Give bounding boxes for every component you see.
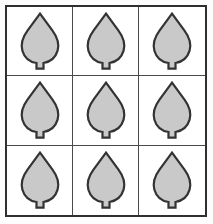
leaf-grid-figure xyxy=(0,0,213,224)
leaf-icon xyxy=(150,10,194,72)
leaf-icon xyxy=(150,149,194,211)
grid-cell-middle-left[interactable] xyxy=(7,76,73,145)
leaf-icon xyxy=(150,79,194,141)
leaf-icon xyxy=(18,79,62,141)
grid-cell-middle-center[interactable] xyxy=(73,76,139,145)
grid-frame xyxy=(5,5,207,217)
grid-cell-bottom-left[interactable] xyxy=(7,146,73,215)
grid-cell-top-right[interactable] xyxy=(139,7,205,76)
grid-cell-bottom-right[interactable] xyxy=(139,146,205,215)
grid-cell-top-left[interactable] xyxy=(7,7,73,76)
leaf-icon xyxy=(84,10,128,72)
leaf-icon xyxy=(18,149,62,211)
leaf-icon xyxy=(18,10,62,72)
leaf-icon xyxy=(84,149,128,211)
grid-cell-bottom-center[interactable] xyxy=(73,146,139,215)
grid-cell-top-center[interactable] xyxy=(73,7,139,76)
leaf-icon xyxy=(84,79,128,141)
grid-cell-middle-right[interactable] xyxy=(139,76,205,145)
